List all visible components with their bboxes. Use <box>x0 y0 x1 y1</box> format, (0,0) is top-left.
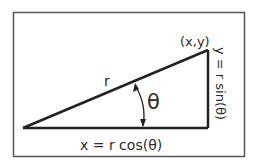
angle-arc-arrow <box>133 83 146 127</box>
polar-coordinates-diagram: r θ (x,y) x = r cos(θ) y = r sin(θ) <box>0 0 255 165</box>
y-equation-label: y = r sin(θ) <box>213 47 228 120</box>
right-triangle <box>23 50 208 128</box>
angle-label: θ <box>147 90 160 114</box>
arrowhead-down-icon <box>140 119 146 127</box>
radius-label: r <box>104 73 110 89</box>
point-label: (x,y) <box>180 34 210 49</box>
x-equation-label: x = r cos(θ) <box>80 137 162 153</box>
hypotenuse-r <box>23 50 208 128</box>
